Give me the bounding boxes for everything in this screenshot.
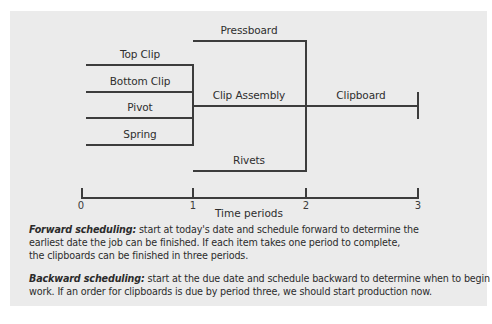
backward-note-line-2: work. If an order for clipboards is due …: [29, 285, 490, 298]
timeline-tick-label-0: 0: [78, 200, 84, 211]
timeline-tick-label-3: 3: [415, 200, 421, 211]
rivets-line: [193, 170, 307, 172]
forward-scheduling-term: Forward scheduling:: [29, 224, 136, 235]
timeline-tick-label-2: 2: [303, 200, 309, 211]
backward-scheduling-term: Backward scheduling:: [29, 273, 145, 284]
timeline-tick-1: [192, 188, 194, 199]
clipboard-line: [306, 105, 418, 107]
component-label-spring: Spring: [123, 128, 156, 140]
forward-note-line-2: earliest date the job can be finished. I…: [29, 236, 419, 249]
component-label-bottom-clip: Bottom Clip: [110, 75, 171, 87]
forward-note-line-3: the clipboards can be finished in three …: [29, 249, 419, 262]
component-label-pivot: Pivot: [127, 101, 152, 113]
bottom-clip-line: [86, 91, 194, 93]
top-clip-line: [86, 64, 194, 66]
spring-line: [86, 144, 194, 146]
product-label-clipboard: Clipboard: [336, 89, 385, 101]
pivot-line: [86, 117, 194, 119]
subassembly-label-clip-assembly: Clip Assembly: [213, 89, 285, 101]
forward-scheduling-note: Forward scheduling: start at today's dat…: [29, 223, 419, 262]
forward-note-text-1: start at today's date and schedule forwa…: [136, 224, 419, 235]
timeline-axis: [81, 197, 419, 199]
part-label-rivets: Rivets: [233, 154, 265, 166]
forward-note-line-1: Forward scheduling: start at today's dat…: [29, 223, 419, 236]
part-label-pressboard: Pressboard: [221, 24, 278, 36]
backward-scheduling-note: Backward scheduling: start at the due da…: [29, 272, 490, 298]
backward-note-line-1: Backward scheduling: start at the due da…: [29, 272, 490, 285]
clip-assembly-line: [193, 105, 307, 107]
timeline-axis-title: Time periods: [215, 207, 283, 219]
timeline-tick-0: [81, 188, 83, 199]
timeline-tick-2: [305, 188, 307, 199]
timeline-tick-label-1: 1: [190, 200, 196, 211]
backward-note-text-1: start at the due date and schedule backw…: [145, 273, 490, 284]
component-label-top-clip: Top Clip: [120, 48, 160, 60]
clipboard-end-tick: [417, 92, 419, 119]
timeline-tick-3: [417, 188, 419, 199]
pressboard-line: [193, 40, 307, 42]
